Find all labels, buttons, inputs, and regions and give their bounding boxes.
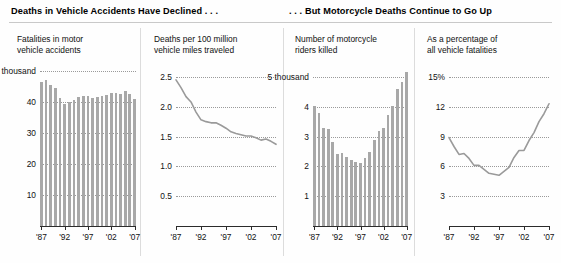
bar [387, 115, 390, 226]
bar [82, 96, 85, 226]
bar [40, 82, 43, 226]
x-axis-tick [176, 226, 177, 230]
x-axis-tick-label: '92 [196, 232, 207, 242]
bar [391, 106, 394, 226]
plot-area-death-rate: 2.52.01.51.00.5'87'92'97'02'07 [176, 65, 276, 226]
bar [59, 98, 62, 226]
panels-container: Fatalities in motor vehicle accidents 50… [0, 24, 561, 263]
x-axis-tick [549, 226, 550, 230]
x-axis-tick [407, 226, 408, 230]
y-axis-tick-label: 20 [27, 159, 36, 169]
plot-area-motorcycle-deaths: 5 thousand4321'87'92'97'02'07 [313, 65, 408, 226]
panel-title: As a percentage of all vehicle fatalitie… [427, 34, 557, 55]
x-axis-tick [474, 226, 475, 230]
bar [87, 96, 90, 226]
y-axis-tick-label: 2 [304, 161, 309, 171]
panel-separator-2 [283, 28, 284, 256]
bar [331, 142, 334, 226]
x-axis-tick-label: '07 [401, 232, 412, 242]
x-axis-tick-label: '87 [171, 232, 182, 242]
bar [382, 128, 385, 226]
bar [354, 162, 357, 226]
y-axis-tick-label: 10 [27, 190, 36, 200]
x-axis-tick-label: '97 [494, 232, 505, 242]
x-axis-tick-label: '92 [59, 232, 70, 242]
bar [68, 102, 71, 226]
y-axis-tick-label: 5 thousand [268, 72, 309, 82]
bar [368, 152, 371, 226]
bar [336, 154, 339, 226]
bar [341, 153, 344, 226]
bar [359, 163, 362, 226]
y-axis-tick-label: 2.0 [160, 102, 172, 112]
bar [345, 157, 348, 226]
bar [115, 93, 118, 226]
x-axis-tick-label: '92 [332, 232, 343, 242]
x-axis-tick [226, 226, 227, 230]
x-axis-tick-label: '97 [221, 232, 232, 242]
x-axis-tick [361, 226, 362, 230]
panel-motorcycle-riders-killed: Number of motorcycle riders killed 5 tho… [287, 24, 414, 263]
bar [364, 158, 367, 226]
bar-series [313, 65, 408, 226]
x-axis-tick-label: '02 [106, 232, 117, 242]
header-left: Deaths in Vehicle Accidents Have Decline… [11, 6, 218, 16]
plot-area-percentage: 15%12963'87'92'97'02'07 [449, 65, 549, 226]
bar [396, 89, 399, 226]
y-axis-tick-label: 12 [436, 102, 445, 112]
x-axis-tick [337, 226, 338, 230]
bar [124, 91, 127, 226]
x-axis-tick-label: '87 [444, 232, 455, 242]
bar [119, 94, 122, 227]
x-axis-tick-label: '02 [246, 232, 257, 242]
y-axis-tick-label: 15% [428, 72, 445, 82]
bar [378, 131, 381, 226]
x-axis-tick [449, 226, 450, 230]
bar [45, 80, 48, 226]
y-axis-tick-label: 0.5 [160, 191, 172, 201]
x-axis-tick [251, 226, 252, 230]
x-axis-tick [384, 226, 385, 230]
y-axis-tick-label: 30 [27, 128, 36, 138]
y-axis-tick-label: 3 [440, 191, 445, 201]
x-axis-tick-label: '87 [36, 232, 47, 242]
y-axis-tick-label: 40 [27, 97, 36, 107]
bar [101, 96, 104, 226]
bar-series [40, 65, 136, 226]
panel-deaths-per-100m-vmt: Deaths per 100 million vehicle miles tra… [146, 24, 283, 263]
x-axis-tick [111, 226, 112, 230]
bar [77, 97, 80, 226]
y-axis-tick-label: 4 [304, 102, 309, 112]
bar [401, 82, 404, 226]
y-axis-tick-label: 6 [440, 161, 445, 171]
x-axis-tick-label: '02 [378, 232, 389, 242]
x-axis-tick-label: '07 [544, 232, 555, 242]
x-axis-tick [524, 226, 525, 230]
panel-separator-1 [140, 28, 141, 256]
panel-separator-3 [414, 28, 415, 256]
x-axis-tick [499, 226, 500, 230]
bar [49, 85, 52, 226]
x-axis-tick-label: '07 [271, 232, 282, 242]
x-axis-tick [88, 226, 89, 230]
infographic-sheet: Deaths in Vehicle Accidents Have Decline… [0, 0, 561, 263]
bar [110, 93, 113, 226]
bar [105, 95, 108, 226]
bar [313, 106, 316, 226]
x-axis-tick [201, 226, 202, 230]
panel-title: Number of motorcycle riders killed [295, 34, 425, 55]
bar [133, 99, 136, 226]
header-right: . . . But Motorcycle Deaths Continue to … [289, 6, 492, 16]
y-axis-tick-label: 2.5 [160, 72, 172, 82]
x-axis-tick [314, 226, 315, 230]
plot-area-fatalities: 50 thousand40302010'87'92'97'02'07 [40, 65, 136, 226]
bar [91, 98, 94, 226]
y-axis-tick-label: 3 [304, 132, 309, 142]
x-axis-tick-label: '97 [83, 232, 94, 242]
x-axis-tick-label: '02 [519, 232, 530, 242]
x-axis-tick [135, 226, 136, 230]
bar [373, 140, 376, 226]
bar [327, 129, 330, 226]
bar [318, 113, 321, 226]
x-axis-tick-label: '97 [355, 232, 366, 242]
